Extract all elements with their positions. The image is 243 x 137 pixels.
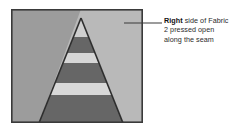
callout-text-block: Right side of Fabric 2 pressed open alon… — [164, 16, 243, 44]
callout-line-1-rest: side of Fabric — [183, 16, 229, 25]
callout-line-1: Right side of Fabric — [164, 16, 243, 25]
callout-line-2: 2 pressed open — [164, 25, 243, 34]
callout-leader-line — [124, 18, 166, 28]
callout-line-1-bold: Right — [164, 16, 183, 25]
callout-line-3: along the seam — [164, 35, 243, 44]
figure-root: Right side of Fabric 2 pressed open alon… — [0, 0, 243, 137]
